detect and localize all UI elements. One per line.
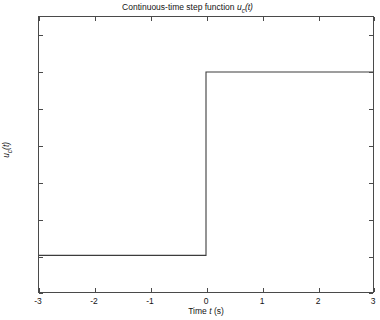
ytick-mark [39,35,43,36]
chart-title-prefix: Continuous-time step function [122,2,237,12]
ytick-mark [39,146,43,147]
ytick-mark [369,257,373,258]
chart-title-argument: (t) [245,2,253,12]
xtick-mark [39,288,40,292]
y-axis-label-subscript: c [6,150,13,153]
ytick-mark [369,35,373,36]
xtick-mark [263,17,264,21]
xtick-mark [374,17,375,21]
xtick-mark [39,17,40,21]
ytick-mark [369,146,373,147]
xtick-label: -1 [135,296,165,306]
xtick-mark [95,288,96,292]
ytick-mark [369,72,373,73]
xtick-mark [207,17,208,21]
xtick-label: 1 [247,296,277,306]
xtick-label: 3 [358,296,380,306]
ytick-mark [39,72,43,73]
ytick-mark [39,109,43,110]
xtick-mark [319,288,320,292]
xtick-mark [151,17,152,21]
x-axis-label-prefix: Time [188,306,209,316]
xtick-label: 0 [191,296,221,306]
xtick-mark [374,288,375,292]
xtick-label: -2 [79,296,109,306]
ytick-mark [369,183,373,184]
xtick-label: 2 [303,296,333,306]
ytick-mark [39,293,43,294]
xtick-label: -3 [23,296,53,306]
step-function-plot [39,17,373,292]
xtick-mark [95,17,96,21]
ytick-mark [39,257,43,258]
ytick-mark [369,293,373,294]
ytick-mark [369,220,373,221]
x-axis-label-suffix: (s) [212,306,224,316]
xtick-mark [319,17,320,21]
y-axis-label-argument: (t) [1,142,11,150]
xtick-mark [207,288,208,292]
x-axis-label: Time t (s) [38,306,374,317]
chart-title: Continuous-time step function uc(t) [0,2,375,16]
ytick-mark [369,109,373,110]
plot-area [38,16,374,293]
xtick-mark [263,288,264,292]
ytick-mark [39,220,43,221]
y-axis-label: uc(t) [1,120,15,180]
y-axis-label-variable: u [1,153,11,158]
xtick-mark [151,288,152,292]
ytick-mark [39,183,43,184]
step-function-line [39,72,373,255]
